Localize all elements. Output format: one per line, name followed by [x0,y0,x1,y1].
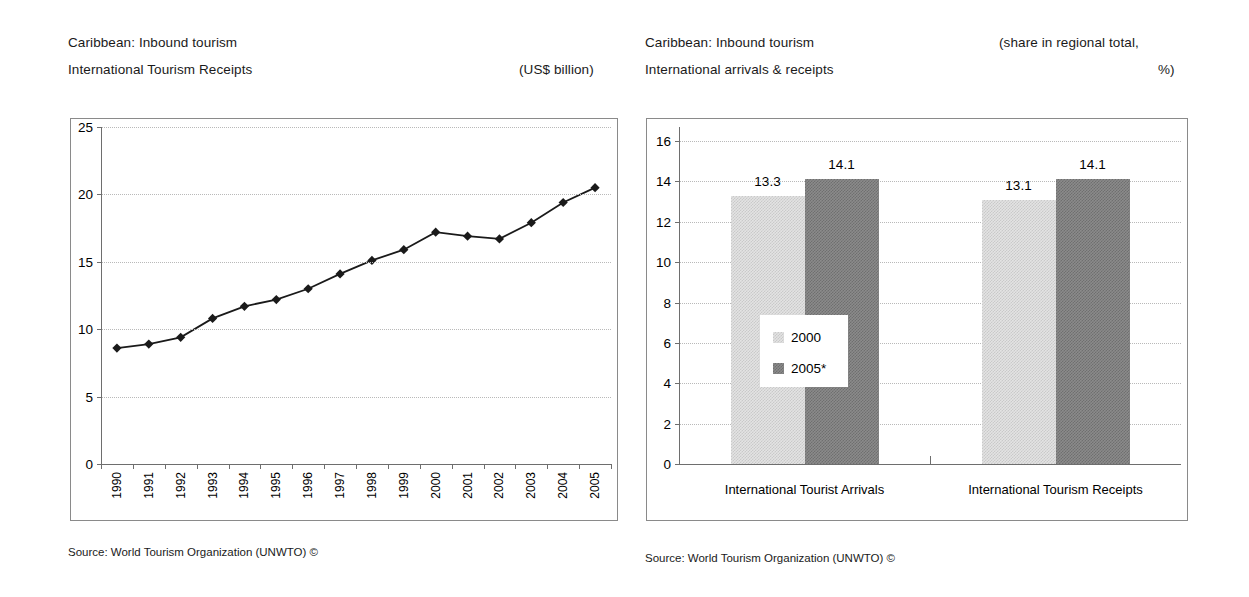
data-point-marker [272,295,281,304]
data-point-marker [335,269,344,278]
line-series [117,188,595,348]
x-axis-tick [611,464,612,469]
left-chart-panel: Caribbean: Inbound tourism International… [0,0,630,597]
x-axis-tick [547,464,548,469]
x-axis-label: 2003 [524,472,538,499]
left-header-line2: International Tourism Receipts [68,62,252,77]
y-axis-label: 15 [53,254,93,269]
x-axis-tick [356,464,357,469]
x-axis-tick [515,464,516,469]
x-axis-tick [229,464,230,469]
right-unit-label-line2: %) [1158,62,1175,77]
x-axis-label: 2005 [588,472,602,499]
category-label: International Tourist Arrivals [679,482,930,497]
line-chart-frame: 0510152025199019911992199319941995199619… [70,118,618,521]
x-axis-tick [292,464,293,469]
right-chart-panel: Caribbean: Inbound tourism International… [630,0,1249,597]
y-axis-label: 16 [631,134,671,149]
x-axis-label: 1991 [142,472,156,499]
x-axis-tick [324,464,325,469]
x-axis-label: 1998 [365,472,379,499]
data-point-marker [176,333,185,342]
data-point-marker [367,256,376,265]
category-label: International Tourism Receipts [930,482,1181,497]
left-source-note: Source: World Tourism Organization (UNWT… [68,546,318,558]
category-separator-tick [930,456,931,465]
y-axis-label: 14 [631,174,671,189]
right-source-note: Source: World Tourism Organization (UNWT… [645,552,895,564]
bar-value-label: 13.3 [731,174,805,189]
x-axis-label: 1994 [237,472,251,499]
gridline [101,397,611,398]
right-header-line1: Caribbean: Inbound tourism [645,35,814,50]
gridline [101,127,611,128]
bar-2000[interactable] [982,200,1056,464]
x-axis-label: 2000 [429,472,443,499]
gridline [679,141,1181,142]
data-point-marker [590,183,599,192]
x-axis-label: 1995 [269,472,283,499]
x-axis-tick [197,464,198,469]
y-axis-label: 0 [53,457,93,472]
x-axis-label: 2002 [492,472,506,499]
x-axis-label: 1992 [174,472,188,499]
y-axis-label: 5 [53,389,93,404]
legend-swatch-icon [773,332,784,343]
data-point-marker [527,218,536,227]
y-axis-label: 25 [53,120,93,135]
data-point-marker [112,343,121,352]
legend-label: 2000 [791,330,821,345]
y-axis-label: 0 [631,457,671,472]
x-axis-tick [388,464,389,469]
y-axis-label: 12 [631,214,671,229]
y-axis-label: 20 [53,187,93,202]
x-axis-label: 1997 [333,472,347,499]
left-unit-label: (US$ billion) [519,62,594,77]
bar-value-label: 13.1 [982,178,1056,193]
y-axis-label: 8 [631,295,671,310]
x-axis-label: 1999 [397,472,411,499]
right-header-line2: International arrivals & receipts [645,62,834,77]
bar-value-label: 14.1 [805,157,879,172]
y-axis-line [101,127,102,464]
bar-chart-frame: 024681012141613.314.1International Touri… [646,118,1188,521]
data-point-marker [240,302,249,311]
x-axis-label: 2001 [461,472,475,499]
legend: 20002005* [760,315,848,387]
data-point-marker [399,245,408,254]
bar-chart-plot: 024681012141613.314.1International Touri… [647,119,1189,522]
y-axis-label: 6 [631,335,671,350]
y-axis-label: 10 [631,255,671,270]
data-point-marker [144,339,153,348]
data-point-marker [495,234,504,243]
x-axis-tick [165,464,166,469]
y-axis-line [679,127,680,464]
data-point-marker [304,284,313,293]
data-point-marker [463,232,472,241]
data-point-marker [208,314,217,323]
x-axis-tick [420,464,421,469]
x-axis-label: 1993 [206,472,220,499]
legend-label: 2005* [791,361,826,376]
data-point-marker [559,198,568,207]
x-axis-tick [579,464,580,469]
x-axis-label: 1990 [110,472,124,499]
left-header-line1: Caribbean: Inbound tourism [68,35,237,50]
x-axis-label: 2004 [556,472,570,499]
line-chart-plot [71,119,617,520]
data-point-marker [431,228,440,237]
y-axis-label: 4 [631,376,671,391]
x-axis-tick [101,464,102,469]
gridline [101,194,611,195]
x-axis-tick [452,464,453,469]
x-axis-tick [260,464,261,469]
y-axis-label: 2 [631,416,671,431]
right-unit-label-line1: (share in regional total, [999,35,1139,50]
x-axis-label: 1996 [301,472,315,499]
legend-item-2005[interactable]: 2005* [773,361,826,376]
gridline [101,262,611,263]
legend-item-2000[interactable]: 2000 [773,330,821,345]
gridline [101,329,611,330]
x-axis-tick [484,464,485,469]
bar-2005[interactable] [1056,179,1130,464]
